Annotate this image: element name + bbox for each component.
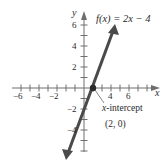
function-line-arrow-up [108, 24, 119, 35]
x-intercept-annotation-text: -intercept [106, 103, 142, 113]
y-tick-label-4: 4 [72, 42, 76, 51]
y-tick-label-6: 6 [72, 21, 76, 30]
annotation-leader-line [95, 90, 104, 103]
x-axis-label: x [155, 88, 159, 98]
function-line-arrow-down [62, 149, 73, 160]
y-tick-label-2: 2 [72, 63, 76, 72]
y-axis-label: y [72, 8, 76, 18]
x-tick-label-neg4: −4 [31, 92, 40, 101]
y-tick-label-neg2: −2 [67, 105, 76, 114]
y-axis-arrowhead [81, 11, 87, 20]
coordinate-plane [0, 0, 167, 165]
x-intercept-annotation: x-intercept [102, 104, 143, 114]
x-tick-label-neg6: −6 [13, 92, 22, 101]
y-tick-label-neg4: −4 [67, 126, 76, 135]
x-tick-label-neg2: −2 [49, 92, 58, 101]
x-tick-label-4: 4 [108, 92, 112, 101]
x-tick-label-6: 6 [126, 92, 130, 101]
x-intercept-marker [90, 85, 96, 91]
graph-figure: −6 −4 −2 4 6 6 4 2 −2 −4 y x f(x) = 2x −… [0, 0, 167, 165]
function-label: f(x) = 2x − 4 [96, 14, 150, 25]
x-intercept-coordinates: (2, 0) [105, 120, 126, 130]
